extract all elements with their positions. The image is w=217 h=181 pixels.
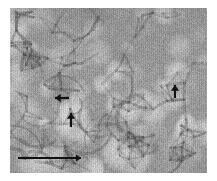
figure-root <box>0 0 217 181</box>
annotation-arrow-left-icon <box>55 94 69 102</box>
annotation-arrow-up-center-icon <box>67 113 75 127</box>
annotation-arrow-up-right-icon <box>171 85 179 98</box>
annotation-overlay <box>10 8 207 173</box>
scale-bar-arrow-icon <box>18 154 81 162</box>
micrograph-panel <box>10 8 207 173</box>
